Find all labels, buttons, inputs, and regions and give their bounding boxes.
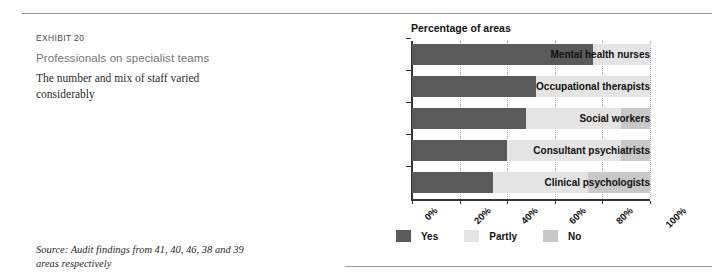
bottom-divider-rule xyxy=(345,266,712,267)
bar-segment-yes[interactable] xyxy=(412,172,493,193)
stacked-bar-chart: Percentage of areas Mental health nurses… xyxy=(268,22,708,262)
chart-legend: YesPartlyNo xyxy=(396,230,607,242)
y-axis-tick xyxy=(406,134,411,135)
y-axis-tick xyxy=(406,166,411,167)
category-label: Clinical psychologists xyxy=(512,177,650,188)
x-axis-tick-label: 40% xyxy=(519,205,540,226)
category-label: Consultant psychiatrists xyxy=(512,145,650,156)
x-axis-tick-label: 100% xyxy=(663,205,688,230)
exhibit-number-label: EXHIBIT 20 xyxy=(36,33,266,43)
category-label: Mental health nurses xyxy=(512,49,650,60)
top-divider-rule xyxy=(22,13,712,14)
legend-label: No xyxy=(568,231,581,242)
x-axis-labels: 0%20%40%60%80%100% xyxy=(412,201,650,231)
bar-segment-yes[interactable] xyxy=(412,108,526,129)
legend-label: Partly xyxy=(489,231,517,242)
gridline xyxy=(650,41,651,199)
x-axis-tick-label: 60% xyxy=(566,205,587,226)
x-axis-tick xyxy=(460,201,461,204)
exhibit-title: Professionals on specialist teams xyxy=(36,52,266,64)
chart-title: Percentage of areas xyxy=(411,22,511,34)
legend-item-yes[interactable]: Yes xyxy=(396,230,438,242)
x-axis-tick xyxy=(412,201,413,204)
x-axis-tick xyxy=(650,201,651,204)
exhibit-caption-block: EXHIBIT 20 Professionals on specialist t… xyxy=(36,33,266,102)
source-note: Source: Audit findings from 41, 40, 46, … xyxy=(36,243,251,270)
legend-swatch-partly xyxy=(464,230,479,242)
y-axis-tick xyxy=(406,38,411,39)
legend-item-no[interactable]: No xyxy=(543,230,581,242)
legend-item-partly[interactable]: Partly xyxy=(464,230,517,242)
legend-swatch-yes xyxy=(396,230,411,242)
bar-segment-yes[interactable] xyxy=(412,140,507,161)
plot-area: Mental health nursesOccupational therapi… xyxy=(268,41,650,199)
legend-swatch-no xyxy=(543,230,558,242)
x-axis-tick-label: 0% xyxy=(422,205,439,222)
x-axis-tick xyxy=(507,201,508,204)
y-axis-tick xyxy=(406,102,411,103)
exhibit-subtitle: The number and mix of staff varied consi… xyxy=(36,71,241,102)
x-axis-tick-label: 80% xyxy=(614,205,635,226)
legend-label: Yes xyxy=(421,231,438,242)
category-label: Occupational therapists xyxy=(512,81,650,92)
x-axis-tick-label: 20% xyxy=(471,205,492,226)
x-axis-tick xyxy=(602,201,603,204)
x-axis-tick xyxy=(555,201,556,204)
y-axis-tick xyxy=(406,70,411,71)
category-label: Social workers xyxy=(512,113,650,124)
